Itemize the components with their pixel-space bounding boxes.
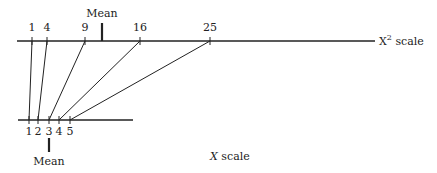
x-tick-label: 5	[67, 125, 74, 138]
x-squared-tick-label: 16	[133, 21, 147, 34]
x-squared-mean-label: Mean	[86, 7, 117, 20]
x-squared-tick-label: 9	[82, 21, 89, 34]
x-squared-tick-label: 25	[203, 21, 217, 34]
mapping-line	[70, 41, 210, 120]
mapping-line	[29, 41, 32, 120]
x-tick-label: 2	[35, 125, 42, 138]
mapping-line	[49, 41, 85, 120]
x-axis-label: X scale	[209, 150, 250, 163]
scale-transformation-diagram: 1491625 Mean X2 scale 12345 Mean X scale	[0, 0, 437, 173]
mapping-line	[38, 41, 47, 120]
x-mean-label: Mean	[33, 155, 64, 168]
x-tick-label: 1	[26, 125, 33, 138]
x-squared-axis-label: X2 scale	[379, 33, 424, 48]
x-ticks: 12345	[26, 116, 74, 138]
x-tick-label: 4	[56, 125, 63, 138]
x-squared-tick-label: 1	[29, 21, 36, 34]
x-tick-label: 3	[46, 125, 53, 138]
mapping-line	[59, 41, 140, 120]
mapping-lines	[29, 41, 210, 120]
x-squared-tick-label: 4	[44, 21, 51, 34]
